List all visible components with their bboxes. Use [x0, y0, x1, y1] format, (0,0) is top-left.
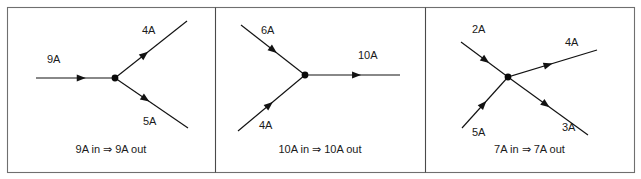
label-outgoing-upper-right-4a: 4A	[142, 24, 156, 36]
caption-panel-1: 9A in ⇒ 9A out	[76, 143, 147, 155]
label-incoming-upper-left-6a: 6A	[261, 24, 275, 36]
label-incoming-upper-left-2a: 2A	[472, 23, 486, 35]
arrow-head-incoming-upper-left-6a	[268, 45, 280, 56]
label-outgoing-right-10a: 10A	[358, 49, 378, 61]
label-incoming-left-9a: 9A	[47, 53, 61, 65]
panel-2: 6A4A10A10A in ⇒ 10A out	[238, 24, 400, 155]
arrow-head-outgoing-right-10a	[352, 71, 361, 78]
panel-1: 9A4A5A9A in ⇒ 9A out	[36, 21, 188, 155]
junction-node-3	[505, 74, 512, 81]
arrow-head-outgoing-lower-right-3a	[540, 99, 552, 110]
kirchhoff-current-law-figure: 9A4A5A9A in ⇒ 9A out6A4A10A10A in ⇒ 10A …	[0, 0, 641, 179]
arrow-head-outgoing-lower-right-5a	[140, 93, 151, 104]
arrow-head-outgoing-upper-right-4a	[543, 60, 554, 70]
junction-node-1	[112, 75, 119, 82]
junction-node-2	[302, 72, 309, 79]
figure-canvas: 9A4A5A9A in ⇒ 9A out6A4A10A10A in ⇒ 10A …	[0, 0, 641, 179]
arrow-head-incoming-left-9a	[77, 74, 86, 81]
caption-panel-2: 10A in ⇒ 10A out	[278, 143, 361, 155]
arrow-head-outgoing-upper-right-4a	[139, 49, 151, 60]
label-outgoing-upper-right-4a: 4A	[565, 36, 579, 48]
arrow-head-incoming-upper-left-2a	[480, 55, 492, 66]
label-incoming-lower-left-4a: 4A	[259, 119, 273, 131]
panel-3: 2A5A4A3A7A in ⇒ 7A out	[461, 23, 597, 155]
label-outgoing-lower-right-3a: 3A	[562, 121, 576, 133]
label-outgoing-lower-right-5a: 5A	[143, 115, 157, 127]
caption-panel-3: 7A in ⇒ 7A out	[494, 143, 565, 155]
label-incoming-lower-left-5a: 5A	[472, 126, 486, 138]
